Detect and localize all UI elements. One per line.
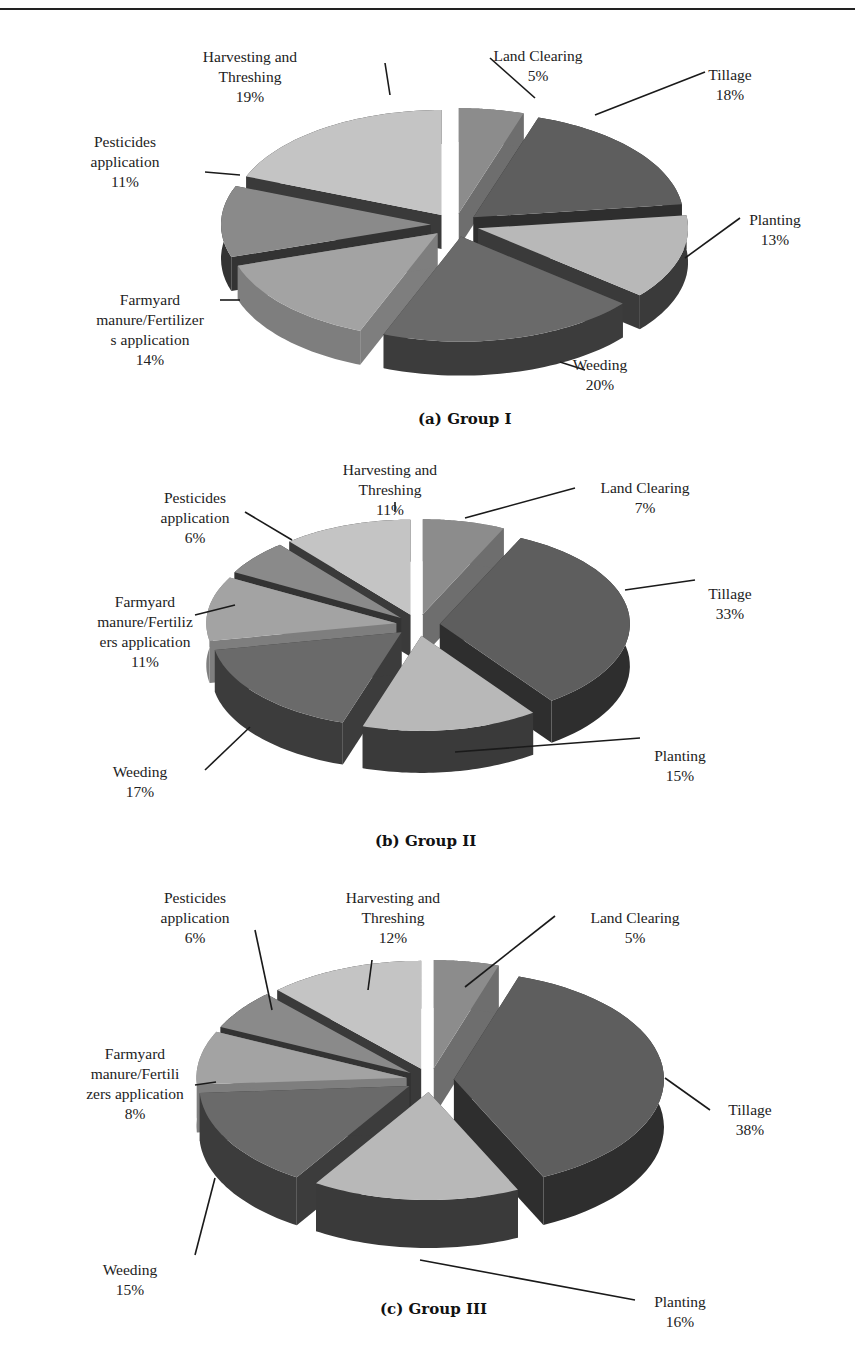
label-planting: Planting16% — [635, 1292, 725, 1332]
leader-line — [205, 172, 240, 175]
leader-line — [665, 1078, 710, 1110]
caption-group-2: (b) Group II — [375, 832, 476, 850]
caption-group-1: (a) Group I — [418, 410, 512, 428]
label-tillage: Tillage38% — [710, 1100, 790, 1140]
leader-line — [205, 727, 250, 770]
pie-chart-group-1: Land Clearing5% Tillage18% Planting13% W… — [0, 0, 855, 440]
label-tillage: Tillage18% — [700, 65, 760, 105]
label-planting: Planting15% — [635, 746, 725, 786]
label-harvesting: Harvesting andThreshing11% — [325, 460, 455, 520]
label-pesticides: Pesticidesapplication6% — [140, 888, 250, 948]
label-farmyard-manure: Farmyardmanure/Fertilizers application11… — [65, 592, 225, 672]
leader-line — [625, 580, 695, 590]
label-harvesting: Harvesting andThreshing19% — [185, 47, 315, 107]
pie-chart-group-3: Land Clearing5% Tillage38% Planting16% W… — [0, 860, 855, 1365]
leader-line — [685, 218, 740, 258]
label-weeding: Weeding17% — [100, 762, 180, 802]
leader-line — [595, 72, 705, 115]
pie-chart-group-2: Land Clearing7% Tillage33% Planting15% W… — [0, 440, 855, 860]
leader-line — [195, 1178, 215, 1255]
label-land-clearing: Land Clearing5% — [468, 46, 608, 86]
leader-line — [245, 512, 292, 540]
leader-line — [420, 1260, 635, 1300]
label-pesticides: Pesticidesapplication11% — [70, 132, 180, 192]
label-weeding: Weeding15% — [90, 1260, 170, 1300]
label-harvesting: Harvesting andThreshing12% — [318, 888, 468, 948]
label-planting: Planting13% — [735, 210, 815, 250]
label-farmyard-manure: Farmyardmanure/Fertilizers application14… — [65, 290, 235, 370]
leader-line — [465, 488, 575, 518]
label-land-clearing: Land Clearing7% — [575, 478, 715, 518]
leader-line — [465, 916, 555, 987]
leader-line — [385, 63, 390, 95]
caption-group-3: (c) Group III — [380, 1300, 487, 1318]
label-farmyard-manure: Farmyardmanure/Fertilizers application8% — [55, 1044, 215, 1124]
label-tillage: Tillage33% — [695, 584, 765, 624]
label-land-clearing: Land Clearing5% — [565, 908, 705, 948]
label-pesticides: Pesticidesapplication6% — [140, 488, 250, 548]
label-weeding: Weeding20% — [560, 355, 640, 395]
